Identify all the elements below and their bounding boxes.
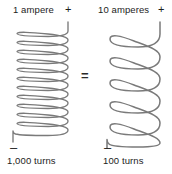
left-coil-turns-label: 1,000 turns xyxy=(7,155,56,166)
right-coil-current-label: 10 amperes xyxy=(98,4,149,15)
right-coil-positive-terminal-label: + xyxy=(158,4,164,15)
right-coil-drawing xyxy=(0,0,172,174)
equals-sign: = xyxy=(81,69,89,82)
right-coil-negative-terminal-label: – xyxy=(104,141,111,154)
right-coil-turns-label: 100 turns xyxy=(103,155,144,166)
left-coil-negative-terminal-label: – xyxy=(10,141,17,154)
left-coil-positive-terminal-label: + xyxy=(65,4,71,15)
right-coil-winding xyxy=(107,22,160,148)
left-coil-current-label: 1 ampere xyxy=(13,4,54,15)
solenoid-comparison-diagram: 1 ampere + – 1,000 turns 10 amperes + – … xyxy=(0,0,172,174)
